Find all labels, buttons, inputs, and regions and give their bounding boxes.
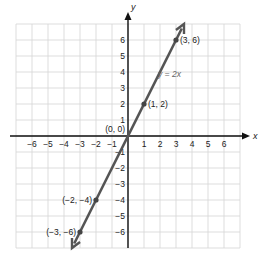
x-tick-label: 1 xyxy=(142,139,147,149)
point-label: (−2, −4) xyxy=(62,195,92,205)
y-tick-label: −3 xyxy=(115,179,125,189)
data-point xyxy=(93,197,98,202)
y-tick-label: 5 xyxy=(120,51,125,61)
y-tick-label: 4 xyxy=(120,67,125,77)
coordinate-plane: xy−6−5−4−3−2−1123456−6−5−4−3−2−1123456(−… xyxy=(0,0,259,266)
y-tick-label: −6 xyxy=(115,227,125,237)
y-axis-arrow-icon xyxy=(125,12,132,20)
x-tick-label: −2 xyxy=(91,139,101,149)
x-tick-label: 2 xyxy=(158,139,163,149)
x-tick-label: 3 xyxy=(174,139,179,149)
y-tick-label: 3 xyxy=(120,83,125,93)
data-point xyxy=(173,37,178,42)
x-tick-label: −4 xyxy=(59,139,69,149)
y-tick-label: 2 xyxy=(120,99,125,109)
point-label: (1, 2) xyxy=(148,99,168,109)
y-axis-label: y xyxy=(130,2,136,12)
y-tick-label: −4 xyxy=(115,195,125,205)
point-label: (0, 0) xyxy=(105,124,125,134)
x-axis-label: x xyxy=(252,131,258,141)
x-tick-label: 6 xyxy=(222,139,227,149)
data-point xyxy=(77,229,82,234)
x-tick-label: 5 xyxy=(206,139,211,149)
x-tick-label: 4 xyxy=(190,139,195,149)
y-tick-label: −2 xyxy=(115,163,125,173)
x-axis-arrow-icon xyxy=(242,133,250,140)
y-tick-label: 6 xyxy=(120,35,125,45)
x-tick-label: −5 xyxy=(43,139,53,149)
x-tick-label: −6 xyxy=(27,139,37,149)
point-label: (−3, −6) xyxy=(46,227,76,237)
y-tick-label: −5 xyxy=(115,211,125,221)
point-label: (3, 6) xyxy=(180,35,200,45)
data-point xyxy=(141,101,146,106)
x-tick-label: −3 xyxy=(75,139,85,149)
equation-label: y = 2x xyxy=(157,69,182,79)
